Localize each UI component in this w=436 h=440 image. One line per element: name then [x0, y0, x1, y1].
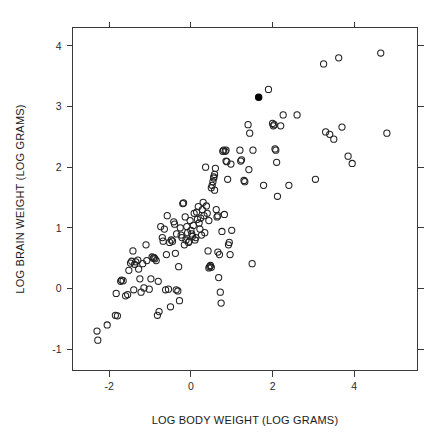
data-point [265, 86, 271, 92]
y-axis-title: LOG BRAIN WEIGHT (LOG GRAMS) [14, 104, 26, 293]
data-point [237, 147, 243, 153]
data-point [378, 50, 384, 56]
data-point [94, 328, 100, 334]
data-point [320, 61, 326, 67]
data-point [216, 275, 222, 281]
x-axis-title: LOG BODY WEIGHT (LOG GRAMS) [152, 414, 339, 426]
data-point [203, 164, 209, 170]
data-point [173, 287, 179, 293]
data-point [95, 337, 101, 343]
data-point [104, 322, 110, 328]
data-point [160, 238, 166, 244]
data-point [154, 312, 160, 318]
data-point [156, 309, 162, 315]
x-axis-tick-labels: -2024 [105, 380, 358, 392]
data-point [176, 298, 182, 304]
data-point [177, 225, 183, 231]
x-tick-label-4: 4 [351, 380, 357, 392]
data-point [274, 193, 280, 199]
y-tick-label-3: 3 [56, 100, 62, 112]
data-point [126, 267, 132, 273]
data-point [167, 304, 173, 310]
y-tick-label--1: -1 [52, 343, 61, 355]
data-point [206, 217, 212, 223]
data-point [336, 55, 342, 61]
data-point [113, 290, 119, 296]
data-point [227, 251, 233, 257]
data-point [218, 300, 224, 306]
data-point [212, 165, 218, 171]
plot-frame [73, 28, 418, 371]
data-point [130, 248, 136, 254]
x-tick-label--2: -2 [105, 380, 114, 392]
data-point [286, 182, 292, 188]
data-point [260, 182, 266, 188]
data-point [384, 130, 390, 136]
data-point [164, 213, 170, 219]
y-tick-label-1: 1 [56, 222, 62, 234]
data-point [249, 261, 255, 267]
x-tick-label-0: 0 [188, 380, 194, 392]
data-point-highlighted [255, 94, 261, 100]
data-point [155, 278, 161, 284]
data-point [205, 248, 211, 254]
data-point [247, 130, 253, 136]
data-point [225, 176, 231, 182]
y-tick-label-4: 4 [56, 40, 62, 52]
data-point [148, 276, 154, 282]
data-point [131, 287, 137, 293]
y-axis-tick-labels: -101234 [52, 40, 62, 356]
data-point [245, 122, 251, 128]
data-point [331, 136, 337, 142]
plot-canvas: -2024 -101234 LOG BODY WEIGHT (LOG GRAMS… [0, 0, 436, 440]
data-point [176, 264, 182, 270]
y-tick-label-0: 0 [56, 282, 62, 294]
data-point [278, 123, 284, 129]
data-point [213, 207, 219, 213]
scatter-plot-figure: -2024 -101234 LOG BODY WEIGHT (LOG GRAMS… [0, 0, 436, 440]
data-point [345, 153, 351, 159]
data-point [280, 112, 286, 118]
data-point [221, 211, 227, 217]
data-point [219, 228, 225, 234]
data-point [184, 224, 190, 230]
data-point [349, 160, 355, 166]
x-axis-ticks [109, 22, 354, 377]
data-point [122, 293, 128, 299]
data-point [339, 124, 345, 130]
data-point [136, 266, 142, 272]
data-point [312, 176, 318, 182]
data-point [163, 251, 169, 257]
y-axis-ticks [67, 46, 424, 350]
data-point [274, 159, 280, 165]
data-point [250, 147, 256, 153]
data-point [217, 289, 223, 295]
data-point [137, 276, 143, 282]
x-tick-label-2: 2 [270, 380, 276, 392]
data-point-group [94, 50, 390, 343]
data-point [143, 242, 149, 248]
data-point [172, 250, 178, 256]
data-point [294, 112, 300, 118]
data-point [246, 166, 252, 172]
y-tick-label-2: 2 [56, 161, 62, 173]
data-point [229, 227, 235, 233]
